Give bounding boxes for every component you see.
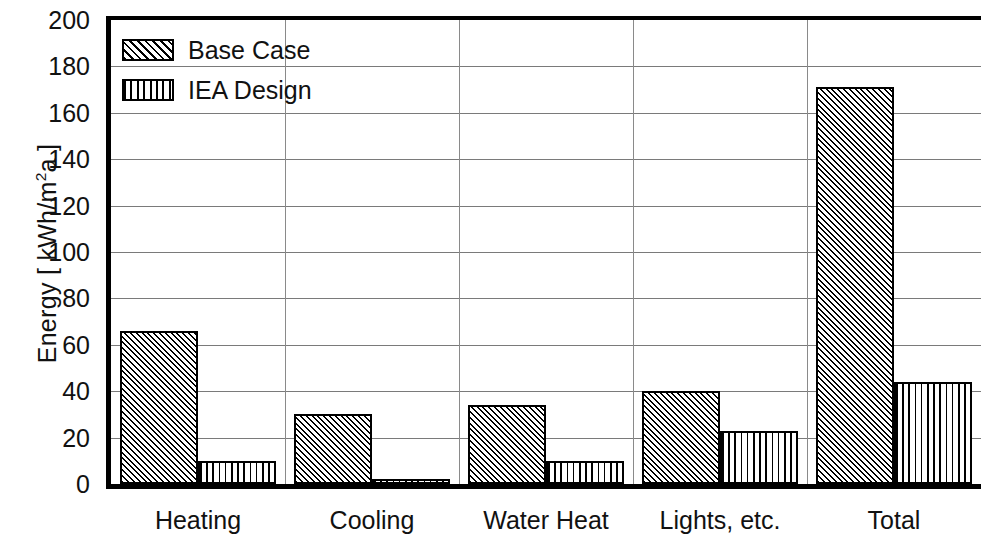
y-axis-tick-label: 20 bbox=[0, 425, 98, 450]
x-axis-category-label: Total bbox=[868, 506, 921, 535]
legend-swatch-base-case bbox=[122, 39, 174, 61]
legend-label: Base Case bbox=[188, 36, 310, 65]
y-axis-tick-label: 200 bbox=[0, 8, 98, 33]
x-axis-category-label: Heating bbox=[155, 506, 241, 535]
energy-bar-chart: Energy [ kWh/m2a ] 020406080100120140160… bbox=[0, 0, 981, 538]
legend: Base CaseIEA Design bbox=[122, 30, 352, 110]
y-axis-tick-label: 160 bbox=[0, 100, 98, 125]
x-axis-category-label: Water Heat bbox=[483, 506, 609, 535]
bar-iea-design bbox=[372, 479, 450, 484]
legend-item: IEA Design bbox=[122, 70, 352, 110]
bar-base-case bbox=[642, 391, 720, 484]
bar-base-case bbox=[120, 331, 198, 484]
y-axis-tick-label: 140 bbox=[0, 147, 98, 172]
bar-base-case bbox=[468, 405, 546, 484]
y-axis-tick-label: 120 bbox=[0, 193, 98, 218]
bar-iea-design bbox=[198, 461, 276, 484]
bar-iea-design bbox=[546, 461, 624, 484]
y-axis-tick-label: 0 bbox=[0, 472, 98, 497]
bar-base-case bbox=[816, 87, 894, 484]
legend-item: Base Case bbox=[122, 30, 352, 70]
y-axis-tick-label: 60 bbox=[0, 332, 98, 357]
y-axis-tick-label: 80 bbox=[0, 286, 98, 311]
gridline-vertical bbox=[633, 20, 634, 484]
bar-iea-design bbox=[720, 431, 798, 484]
legend-label: IEA Design bbox=[188, 76, 312, 105]
y-axis-tick-label: 40 bbox=[0, 379, 98, 404]
y-axis-tick-label: 180 bbox=[0, 54, 98, 79]
bar-iea-design bbox=[894, 382, 972, 484]
x-axis-category-label: Lights, etc. bbox=[660, 506, 781, 535]
bar-base-case bbox=[294, 414, 372, 484]
gridline-vertical bbox=[459, 20, 460, 484]
gridline-vertical bbox=[807, 20, 808, 484]
legend-swatch-iea-design bbox=[122, 79, 174, 101]
x-axis-category-label: Cooling bbox=[330, 506, 415, 535]
y-axis-tick-label: 100 bbox=[0, 240, 98, 265]
y-axis-tick-labels: 020406080100120140160180200 bbox=[0, 0, 98, 538]
